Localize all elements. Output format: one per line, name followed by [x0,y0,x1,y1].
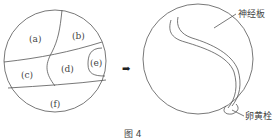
region-c-label: (c) [21,70,33,80]
region-e-label: (e) [90,58,102,68]
yolk-plug-label: 卵黄栓 [245,110,272,121]
boundary-upper [4,42,102,62]
region-d-label: (d) [61,64,74,74]
region-a-label: (a) [29,34,41,44]
figure: (a) (b) (c) (d) (e) (f) ➡ 神经板 卵黄栓 图 4 [0,0,274,140]
region-b-label: (b) [72,31,85,41]
neural-plate-leader [214,14,236,28]
neural-plate-label: 神经板 [238,8,265,19]
boundary-ab-cd [47,10,62,86]
boundary-lower [8,80,106,88]
right-arrow-icon: ➡ [122,63,131,74]
figure-caption: 图 4 [124,129,142,139]
neural-plate-edge-outer [170,20,236,108]
neural-plate-edge-inner [178,17,240,106]
right-diagram [143,4,253,116]
right-circle [143,4,253,114]
yolk-plug-shape [224,104,238,114]
region-f-label: (f) [50,99,60,109]
